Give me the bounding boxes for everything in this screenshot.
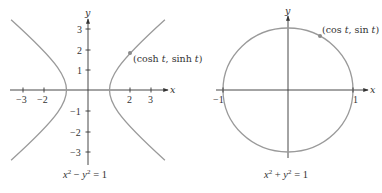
y-tick-label-neg2: −2 xyxy=(70,127,81,138)
x-tick-label-3: 3 xyxy=(148,94,153,105)
y-tick-label-2: 2 xyxy=(77,45,82,56)
circle-y-axis-label: y xyxy=(284,5,291,16)
hyperbola-point-marker xyxy=(128,51,132,55)
circle-x-tick-label-1: 1 xyxy=(353,94,358,105)
y-tick-label-3: 3 xyxy=(77,24,82,35)
circle-equation-caption: x2 + y2 = 1 xyxy=(263,168,308,180)
hyperbola-y-axis-label: y xyxy=(84,7,91,18)
circle-x-axis-label: x xyxy=(370,84,376,95)
hyperbola-x-axis-label: x xyxy=(170,84,176,95)
circle-panel: x y −1 1 (cos t, sin t) x2 + y2 = 1 xyxy=(213,5,379,180)
y-tick-label-neg1: −1 xyxy=(70,106,81,117)
hyperbola-panel: x y −3 −2 2 3 3 2 1 −1 −2 −3 xyxy=(10,7,202,180)
x-tick-label-2: 2 xyxy=(127,94,132,105)
hyperbola-equation-caption: x2 − y2 = 1 xyxy=(62,168,107,180)
diagram-canvas: x y −3 −2 2 3 3 2 1 −1 −2 −3 xyxy=(0,0,382,193)
x-tick-label-neg2: −2 xyxy=(37,94,48,105)
y-tick-label-1: 1 xyxy=(77,65,82,76)
x-tick-label-neg3: −3 xyxy=(16,94,27,105)
hyperbola-point-label: (cosh t, sinh t) xyxy=(133,53,202,64)
circle-x-tick-label-neg1: −1 xyxy=(213,94,224,105)
circle-point-label: (cos t, sin t) xyxy=(322,24,379,35)
y-tick-label-neg3: −3 xyxy=(70,147,81,158)
